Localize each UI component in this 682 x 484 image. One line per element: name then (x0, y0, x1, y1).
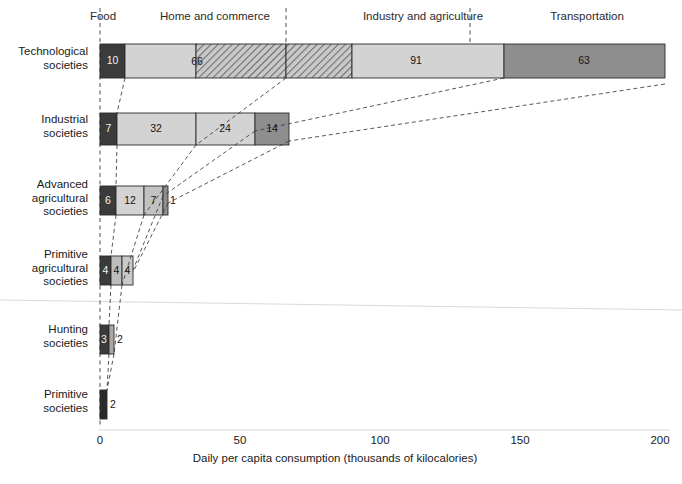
leader-food-boundary (111, 215, 116, 256)
scan-artifact-line (0, 300, 682, 310)
x-tick-label: 150 (506, 434, 534, 446)
value-label: 63 (572, 55, 596, 66)
leader-transport-end (168, 141, 289, 203)
value-label: 7 (144, 195, 163, 206)
bar-segment-industry-hatched-overlap (286, 44, 352, 78)
x-tick-label: 100 (366, 434, 394, 446)
value-label-outside: 2 (117, 334, 123, 345)
value-label: 12 (118, 195, 142, 206)
x-tick-label: 50 (226, 434, 254, 446)
value-label-outside: 2 (110, 399, 116, 410)
value-label: 7 (100, 123, 117, 134)
value-label: 10 (100, 55, 125, 66)
value-label: 32 (144, 123, 168, 134)
leader-food-boundary (117, 78, 125, 113)
chart-container: Food Home and commerce Industry and agri… (0, 0, 682, 484)
value-label: 66 (185, 56, 209, 67)
value-label: 4 (100, 265, 111, 276)
leader-food-boundary (116, 145, 117, 186)
leader-home-boundary (107, 354, 114, 390)
bar-row-primitive (100, 390, 107, 419)
bar-segment-food (100, 390, 107, 419)
leader-transport-end (289, 84, 665, 141)
value-label: 4 (111, 265, 122, 276)
x-tick-label: 200 (646, 434, 674, 446)
value-label-outside: 1 (170, 195, 176, 206)
leader-food-boundary (109, 285, 111, 325)
x-tick-label: 0 (86, 434, 114, 446)
bar-segment-home-and-commerce-hatched (196, 44, 286, 78)
chart-plot-area (0, 0, 682, 484)
value-label: 3 (99, 334, 109, 345)
bar-segment-home-and-commerce (109, 325, 114, 354)
leader-industry-boundary (255, 78, 504, 131)
value-label: 4 (122, 265, 133, 276)
value-label: 24 (213, 123, 237, 134)
value-label: 6 (100, 195, 116, 206)
value-label: 91 (404, 55, 428, 66)
value-label: 14 (260, 123, 284, 134)
x-axis-title: Daily per capita consumption (thousands … (100, 452, 570, 464)
bar-segment-industry-and-agriculture (352, 44, 504, 78)
